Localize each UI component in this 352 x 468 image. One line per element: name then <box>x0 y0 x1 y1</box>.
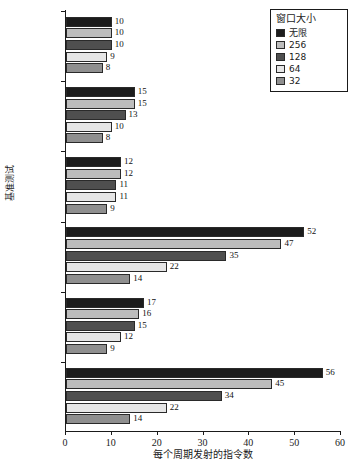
bar-value-label: 47 <box>284 237 293 249</box>
bar[interactable] <box>66 379 272 389</box>
bar[interactable] <box>66 344 107 354</box>
bar-value-label: 22 <box>170 401 179 413</box>
y-axis-tick <box>61 151 65 152</box>
x-axis-tick <box>157 431 158 435</box>
bar-value-label: 15 <box>138 97 147 109</box>
bar-value-label: 9 <box>110 202 115 214</box>
legend-item[interactable]: 256 <box>276 39 343 50</box>
bar-value-label: 14 <box>133 272 142 284</box>
x-axis-title: 每个周期发射的指令数 <box>65 449 340 461</box>
bar[interactable] <box>66 274 130 284</box>
bar[interactable] <box>66 403 167 413</box>
legend-label: 无限 <box>289 28 307 38</box>
bar[interactable] <box>66 133 103 143</box>
legend-items: 无限2561286432 <box>276 27 343 86</box>
bar-row: 52 <box>66 227 341 237</box>
bar-row: 16 <box>66 309 341 319</box>
bar[interactable] <box>66 28 112 38</box>
bar-value-label: 22 <box>170 260 179 272</box>
bar[interactable] <box>66 157 121 167</box>
y-axis-tick <box>61 11 65 12</box>
bar-value-label: 34 <box>225 389 234 401</box>
bar[interactable] <box>66 368 323 378</box>
bar[interactable] <box>66 227 304 237</box>
x-axis-tick-label: 0 <box>50 437 80 449</box>
x-axis-tick-label: 50 <box>279 437 309 449</box>
bar[interactable] <box>66 298 144 308</box>
bar[interactable] <box>66 63 103 73</box>
bar-group: doduc171615129 <box>65 298 340 354</box>
bar-row: 56 <box>66 368 341 378</box>
bar[interactable] <box>66 321 135 331</box>
bar[interactable] <box>66 52 107 62</box>
x-axis-tick-label: 10 <box>96 437 126 449</box>
legend-label: 128 <box>289 52 306 62</box>
x-axis-tick <box>111 431 112 435</box>
bar[interactable] <box>66 169 121 179</box>
bar[interactable] <box>66 309 139 319</box>
bar-row: 11 <box>66 180 341 190</box>
y-axis-tick <box>61 292 65 293</box>
bar-row: 35 <box>66 251 341 261</box>
bar-value-label: 11 <box>119 178 128 190</box>
bar-row: 14 <box>66 414 341 424</box>
legend: 窗口大小 无限2561286432 <box>270 9 348 92</box>
bar[interactable] <box>66 87 135 97</box>
bar-row: 11 <box>66 192 341 202</box>
bar[interactable] <box>66 391 222 401</box>
x-axis-tick <box>248 431 249 435</box>
bar[interactable] <box>66 251 226 261</box>
legend-swatch-icon <box>276 29 285 37</box>
bar-value-label: 10 <box>115 26 124 38</box>
bar[interactable] <box>66 204 107 214</box>
x-axis-tick <box>294 431 295 435</box>
x-axis-tick-label: 40 <box>233 437 263 449</box>
x-axis-tick <box>65 431 66 435</box>
bar[interactable] <box>66 40 112 50</box>
legend-item[interactable]: 无限 <box>276 27 343 38</box>
bar-value-label: 9 <box>110 50 115 62</box>
y-axis-tick <box>61 222 65 223</box>
legend-label: 64 <box>289 64 300 74</box>
bar-value-label: 35 <box>229 249 238 261</box>
bar-row: 22 <box>66 403 341 413</box>
bar[interactable] <box>66 332 121 342</box>
legend-item[interactable]: 128 <box>276 51 343 62</box>
legend-label: 32 <box>289 76 300 86</box>
bar[interactable] <box>66 17 112 27</box>
bar-row: 9 <box>66 344 341 354</box>
bar-value-label: 56 <box>326 366 335 378</box>
legend-label: 256 <box>289 40 306 50</box>
bar-row: 45 <box>66 379 341 389</box>
legend-swatch-icon <box>276 53 285 61</box>
bar-value-label: 12 <box>124 330 133 342</box>
bar-group: fpppp5247352214 <box>65 227 340 283</box>
bar[interactable] <box>66 99 135 109</box>
bar[interactable] <box>66 122 112 132</box>
y-axis-title: 基准测试 <box>5 151 15 215</box>
bar[interactable] <box>66 110 126 120</box>
bar[interactable] <box>66 239 281 249</box>
x-axis-tick-label: 20 <box>142 437 172 449</box>
x-axis-tick <box>203 431 204 435</box>
x-axis-tick <box>340 431 341 435</box>
bar-value-label: 10 <box>115 15 124 27</box>
y-axis-tick <box>61 362 65 363</box>
bar-row: 22 <box>66 262 341 272</box>
bar-row: 13 <box>66 110 341 120</box>
bar-value-label: 15 <box>138 85 147 97</box>
legend-item[interactable]: 32 <box>276 75 343 86</box>
bar-row: 8 <box>66 133 341 143</box>
bar-row: 12 <box>66 157 341 167</box>
bar[interactable] <box>66 414 130 424</box>
bar-row: 15 <box>66 321 341 331</box>
bar[interactable] <box>66 192 116 202</box>
bar-chart: 基准测试 gcc10101098espresso151513108li12121… <box>0 0 352 468</box>
legend-item[interactable]: 64 <box>276 63 343 74</box>
bar-group: tomcatv5645342214 <box>65 368 340 424</box>
bar-value-label: 10 <box>115 38 124 50</box>
bar[interactable] <box>66 180 116 190</box>
bar-value-label: 52 <box>307 225 316 237</box>
bar[interactable] <box>66 262 167 272</box>
bar-row: 10 <box>66 122 341 132</box>
